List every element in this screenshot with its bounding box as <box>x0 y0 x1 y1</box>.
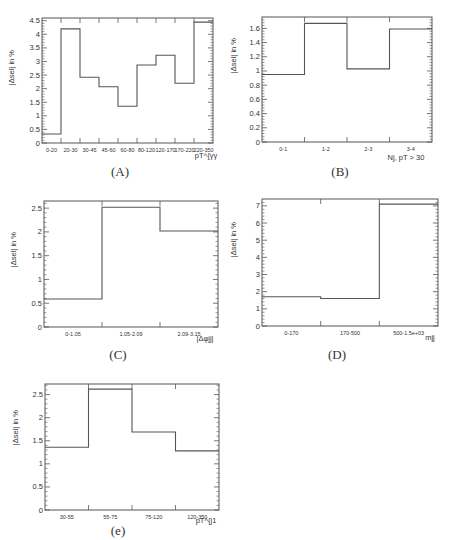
y-tick-label: 1 <box>256 66 260 75</box>
x-tick-label: 55-75 <box>103 514 117 520</box>
chart-panel-b: 00.20.40.60.811.21.41.60-11-22-33-4|Δsel… <box>229 17 432 179</box>
y-tick-label: 0 <box>256 138 260 147</box>
x-axis-label: pT^{j1 <box>196 516 217 525</box>
y-tick-label: 0.4 <box>250 109 260 118</box>
histogram-line <box>44 207 218 299</box>
figure-canvas: 00.511.522.533.544.50-2020-3030-4545-606… <box>0 0 451 540</box>
figure-caption: (B) <box>331 164 348 179</box>
x-tick-label: 30-45 <box>82 147 96 153</box>
y-tick-label: 4 <box>36 30 40 39</box>
y-tick-label: 1 <box>38 275 42 284</box>
x-tick-label: 500-1.5e+03 <box>393 330 424 336</box>
x-axis-label: mjj <box>425 333 435 342</box>
y-tick-label: 4.5 <box>30 16 40 25</box>
y-tick-label: 0 <box>38 323 42 332</box>
figure-caption: (A) <box>111 164 129 179</box>
histogram-line <box>42 22 213 134</box>
y-tick-label: 1 <box>256 304 260 313</box>
y-tick-label: 1.5 <box>32 251 42 260</box>
x-tick-label: 30-55 <box>60 514 74 520</box>
y-tick-label: 2.5 <box>32 204 42 213</box>
x-tick-label: 2-3 <box>364 146 372 152</box>
y-tick-label: 0.2 <box>250 123 260 132</box>
y-tick-label: 2 <box>38 227 42 236</box>
x-axis-label: Nj, pT > 30 <box>388 153 425 162</box>
y-axis-label: |Δsel| in % <box>229 222 238 257</box>
figure-caption: (C) <box>109 347 126 362</box>
y-tick-label: 3 <box>256 270 260 279</box>
y-tick-label: 4 <box>256 253 260 262</box>
y-tick-label: 6 <box>256 219 260 228</box>
x-tick-label: 1-2 <box>322 146 330 152</box>
x-tick-label: 0-170 <box>284 330 298 336</box>
x-tick-label: 170-500 <box>340 330 360 336</box>
x-tick-label: 60-80 <box>120 147 134 153</box>
y-tick-label: 1 <box>36 111 40 120</box>
x-tick-label: 3-4 <box>407 146 415 152</box>
plot-frame <box>42 18 213 143</box>
chart-panel-c: 00.511.522.50-1.051.05-2.092.09-3.15|Δse… <box>9 201 218 362</box>
y-tick-label: 7 <box>256 201 260 210</box>
y-tick-label: 1.2 <box>250 52 260 61</box>
chart-panel-a: 00.511.522.533.544.50-2020-3030-4545-606… <box>7 16 217 179</box>
plot-frame <box>44 201 218 327</box>
x-tick-label: 0-20 <box>46 147 57 153</box>
y-tick-label: 1 <box>39 459 43 468</box>
y-tick-label: 3 <box>36 57 40 66</box>
y-axis-label: |Δsel| in % <box>229 38 238 73</box>
x-axis-label: pT^{γγ <box>195 151 218 160</box>
y-tick-label: 3.5 <box>30 43 40 52</box>
chart-panel-e: 00.511.522.530-5555-7575-120120-350|Δsel… <box>11 384 219 538</box>
y-axis-label: |Δsel| in % <box>9 232 18 267</box>
x-tick-label: 20-30 <box>63 147 77 153</box>
y-tick-label: 1.5 <box>30 98 40 107</box>
figure-caption: (D) <box>328 347 346 362</box>
y-tick-label: 2 <box>256 287 260 296</box>
y-tick-label: 0 <box>39 506 43 515</box>
y-tick-label: 0 <box>256 322 260 331</box>
y-tick-label: 0.5 <box>33 482 43 491</box>
y-tick-label: 2.5 <box>33 390 43 399</box>
y-tick-label: 0 <box>36 139 40 148</box>
x-tick-label: 0-1 <box>279 146 287 152</box>
y-tick-label: 1.6 <box>250 24 260 33</box>
y-tick-label: 5 <box>256 236 260 245</box>
x-axis-label: |Δφjj| <box>196 334 213 343</box>
x-tick-label: 170-220 <box>174 147 194 153</box>
chart-panel-d: 012345670-170170-500500-1.5e+03|Δsel| in… <box>229 199 438 362</box>
y-tick-label: 1.5 <box>33 436 43 445</box>
x-tick-label: 80-120 <box>138 147 155 153</box>
x-tick-label: 120-170 <box>155 147 175 153</box>
x-tick-label: 75-120 <box>145 514 162 520</box>
y-tick-label: 0.8 <box>250 81 260 90</box>
histogram-line <box>262 23 432 74</box>
histogram-line <box>262 204 438 298</box>
x-tick-label: 0-1.05 <box>65 331 81 337</box>
y-tick-label: 2.5 <box>30 71 40 80</box>
y-tick-label: 1.4 <box>250 38 260 47</box>
histogram-line <box>45 389 219 451</box>
y-tick-label: 2 <box>36 84 40 93</box>
figure-caption: (e) <box>111 523 125 538</box>
x-tick-label: 1.05-2.09 <box>119 331 142 337</box>
plot-frame <box>262 199 438 326</box>
y-tick-label: 2 <box>39 413 43 422</box>
y-axis-label: |Δsel| in % <box>7 50 16 85</box>
y-tick-label: 0.5 <box>32 299 42 308</box>
y-tick-label: 0.6 <box>250 95 260 104</box>
y-tick-label: 0.5 <box>30 125 40 134</box>
y-axis-label: |Δsel| in % <box>11 410 20 445</box>
x-tick-label: 45-60 <box>101 147 115 153</box>
